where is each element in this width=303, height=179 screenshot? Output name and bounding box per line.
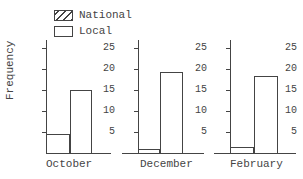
tick [42, 69, 46, 70]
tick [134, 111, 138, 112]
tick-label: 25 [285, 42, 297, 53]
category-label: December [140, 158, 193, 170]
tick-label: 25 [103, 42, 115, 53]
tick-label: 20 [195, 63, 207, 74]
tick [42, 111, 46, 112]
category-label: October [46, 158, 92, 170]
tick-label: 10 [103, 105, 115, 116]
panel-december: 5 10 15 20 25 December [138, 40, 213, 179]
tick [134, 132, 138, 133]
bar-local-december [160, 72, 183, 154]
tick-label: 15 [195, 84, 207, 95]
hatched-swatch-icon [54, 10, 73, 21]
tick-label: 20 [103, 63, 115, 74]
tick [42, 48, 46, 49]
y-axis [138, 40, 139, 153]
panel-october: 5 10 15 20 25 October [46, 40, 121, 179]
tick [226, 69, 230, 70]
tick-label: 20 [285, 63, 297, 74]
tick [226, 90, 230, 91]
tick-label: 5 [291, 126, 297, 137]
legend-item-local: Local [54, 23, 132, 39]
bar-national-february [230, 147, 254, 154]
tick [226, 48, 230, 49]
tick-label: 15 [103, 84, 115, 95]
tick-label: 15 [285, 84, 297, 95]
tick [134, 48, 138, 49]
tick-label: 25 [195, 42, 207, 53]
tick-label: 10 [195, 105, 207, 116]
bar-national-december [138, 149, 160, 154]
bar-local-october [70, 90, 92, 154]
tick-label: 5 [109, 126, 115, 137]
y-axis [230, 40, 231, 153]
tick-label: 5 [201, 126, 207, 137]
tick [226, 132, 230, 133]
bar-local-february [254, 76, 278, 154]
legend-item-national: National [54, 7, 132, 23]
empty-swatch-icon [54, 26, 73, 37]
tick [42, 132, 46, 133]
tick [226, 111, 230, 112]
panel-february: 5 10 15 20 25 February [230, 40, 303, 179]
legend-label: Local [79, 25, 112, 37]
tick [134, 90, 138, 91]
y-axis-label: Frequency [4, 41, 16, 100]
legend-label: National [79, 9, 132, 21]
category-label: February [230, 158, 283, 170]
tick [42, 90, 46, 91]
bar-national-october [46, 134, 70, 154]
tick [134, 69, 138, 70]
legend: National Local [54, 7, 132, 39]
tick-label: 10 [285, 105, 297, 116]
